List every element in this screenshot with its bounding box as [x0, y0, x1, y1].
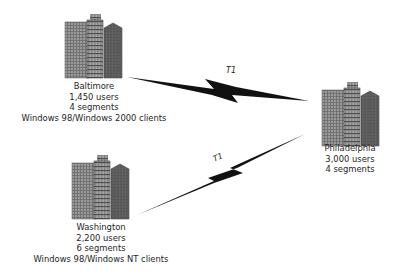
philadelphia-buildings-icon — [322, 82, 379, 146]
site-clients: Windows 98/Windows 2000 clients — [0, 113, 188, 124]
link-label-baltimore: T1 — [226, 66, 236, 75]
site-segments: 6 segments — [10, 243, 192, 254]
network-diagram: T1 T1 Baltimore 1,450 users 4 segments W… — [0, 0, 399, 279]
site-name: Philadelphia — [310, 143, 390, 154]
link-bolt-washington-philadelphia — [137, 134, 305, 215]
site-users: 1,450 users — [0, 92, 188, 103]
site-philadelphia: Philadelphia 3,000 users 4 segments — [310, 143, 390, 175]
washington-buildings-icon — [72, 155, 129, 219]
site-name: Washington — [10, 222, 192, 233]
site-segments: 4 segments — [310, 164, 390, 175]
site-users: 2,200 users — [10, 233, 192, 244]
site-baltimore: Baltimore 1,450 users 4 segments Windows… — [0, 81, 188, 123]
site-washington: Washington 2,200 users 6 segments Window… — [10, 222, 192, 264]
site-segments: 4 segments — [0, 102, 188, 113]
baltimore-buildings-icon — [65, 14, 122, 78]
site-name: Baltimore — [0, 81, 188, 92]
site-users: 3,000 users — [310, 154, 390, 165]
site-clients: Windows 98/Windows NT clients — [10, 254, 192, 265]
